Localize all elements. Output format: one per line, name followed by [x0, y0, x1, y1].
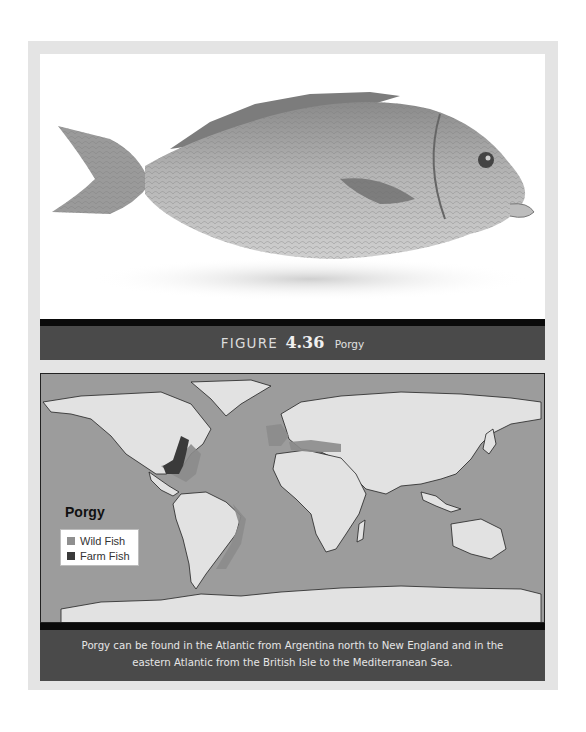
- caption-bottom-rule: [40, 623, 545, 630]
- madagascar-landmass: [357, 520, 365, 542]
- caption-top-rule: [40, 319, 545, 326]
- figure-number: 4.36: [285, 333, 324, 352]
- legend-label-wild: Wild Fish: [80, 535, 125, 547]
- figure-name: Porgy: [335, 338, 364, 350]
- map-caption-bar: Porgy can be found in the Atlantic from …: [40, 630, 545, 681]
- legend-title: Porgy: [65, 504, 105, 520]
- map-legend: Wild Fish Farm Fish: [60, 529, 139, 566]
- figure-caption-bar: FIGURE 4.36 Porgy: [40, 326, 545, 360]
- wild-fish-swatch: [67, 537, 75, 545]
- farm-fish-swatch: [67, 552, 75, 560]
- caption-line-1: Porgy can be found in the Atlantic from …: [40, 637, 545, 654]
- figure-label: FIGURE: [221, 335, 278, 351]
- world-map: [41, 374, 545, 623]
- distribution-map: Porgy Wild Fish Farm Fish: [40, 373, 545, 623]
- legend-item-wild-fish: Wild Fish: [67, 533, 138, 548]
- indonesia-landmass: [421, 492, 461, 512]
- porgy-fish-photo: [40, 54, 545, 319]
- fish-illustration: [40, 54, 545, 319]
- legend-label-farm: Farm Fish: [80, 550, 130, 562]
- south-america-landmass: [173, 492, 241, 589]
- antarctica-landmass: [61, 586, 541, 623]
- figure-frame: FIGURE 4.36 Porgy: [28, 41, 558, 690]
- legend-item-farm-fish: Farm Fish: [67, 548, 138, 563]
- australia-landmass: [451, 519, 506, 559]
- greenland-landmass: [191, 380, 271, 416]
- caption-line-2: eastern Atlantic from the British Isle t…: [40, 654, 545, 671]
